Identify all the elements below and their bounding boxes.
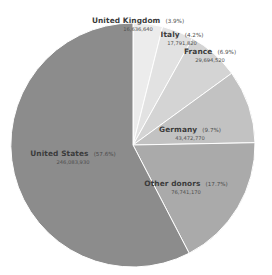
pie-chart-figure: United Kingdom (3.9%) 16,636,640 Italy (…	[0, 0, 272, 275]
pie-slices	[11, 23, 255, 267]
pie-chart-canvas	[0, 0, 272, 275]
